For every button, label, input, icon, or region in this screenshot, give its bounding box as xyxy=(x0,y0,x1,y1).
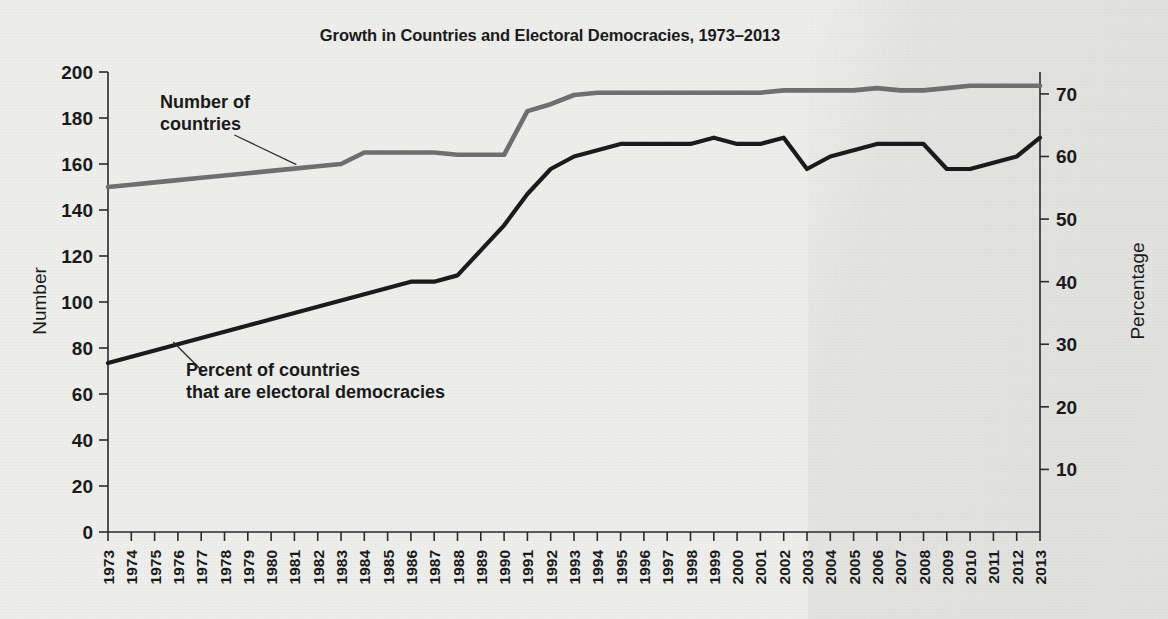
x-axis-year-label: 1973 xyxy=(100,550,117,585)
x-axis-year-label: 1979 xyxy=(240,550,257,585)
x-axis-year-label: 1991 xyxy=(519,550,536,585)
x-axis-year-label: 2012 xyxy=(1009,550,1026,584)
x-axis-year-label: 2007 xyxy=(892,550,909,584)
left-axis-title: Number xyxy=(29,241,51,361)
right-axis-tick-label: 40 xyxy=(1056,272,1077,293)
x-axis-year-label: 1982 xyxy=(310,550,327,584)
x-axis-year-label: 2003 xyxy=(799,550,816,585)
annotation-number-of-countries-line1: Number of xyxy=(160,92,250,114)
right-axis-title: Percentage xyxy=(1127,211,1149,371)
x-axis-year-label: 2013 xyxy=(1032,550,1049,585)
left-axis-tick-label: 40 xyxy=(72,430,93,451)
left-axis-tick-label: 160 xyxy=(61,154,93,175)
x-axis-year-label: 1997 xyxy=(659,550,676,584)
x-axis-year-label: 1993 xyxy=(566,550,583,585)
x-axis-year-label: 1996 xyxy=(636,550,653,585)
annotation-number-of-countries: Number of countries xyxy=(160,92,250,136)
left-axis-tick-label: 60 xyxy=(72,384,93,405)
x-axis-year-label: 1990 xyxy=(496,550,513,584)
right-axis-tick-label: 70 xyxy=(1056,84,1077,105)
x-axis-year-label: 2004 xyxy=(822,550,839,585)
left-axis-tick-label: 200 xyxy=(61,62,93,83)
x-axis-year-label: 2011 xyxy=(985,550,1002,584)
x-axis-year-label: 1986 xyxy=(403,550,420,585)
x-axis-year-label: 1988 xyxy=(450,550,467,585)
annotation-percent-democracies-line1: Percent of countries xyxy=(186,360,445,382)
x-axis-year-label: 2000 xyxy=(729,550,746,584)
chart-title: Growth in Countries and Electoral Democr… xyxy=(0,26,1100,45)
right-axis-tick-label: 30 xyxy=(1056,334,1077,355)
x-axis-year-label: 1984 xyxy=(356,550,373,585)
x-axis-year-label: 1978 xyxy=(217,550,234,585)
x-axis-year-label: 2009 xyxy=(939,550,956,585)
x-axis-year-label: 1994 xyxy=(589,550,606,585)
left-axis-tick-label: 100 xyxy=(61,292,93,313)
x-axis-year-label: 2005 xyxy=(846,550,863,585)
left-axis-tick-label: 0 xyxy=(82,522,93,543)
x-axis-year-label: 1983 xyxy=(333,550,350,585)
x-axis-year-label: 1987 xyxy=(426,550,443,584)
x-axis-year-label: 1980 xyxy=(263,550,280,584)
x-axis-year-label: 1989 xyxy=(473,550,490,585)
right-axis-tick-label: 50 xyxy=(1056,209,1077,230)
annotation-leader-number-of-countries xyxy=(234,135,296,165)
x-axis-year-label: 2008 xyxy=(916,550,933,585)
right-axis-tick-label: 20 xyxy=(1056,397,1077,418)
x-axis-year-label: 2006 xyxy=(869,550,886,585)
left-axis-tick-label: 80 xyxy=(72,338,93,359)
x-axis-year-label: 2010 xyxy=(962,550,979,584)
annotation-number-of-countries-line2: countries xyxy=(160,114,250,136)
x-axis-year-label: 1981 xyxy=(286,550,303,585)
x-axis-year-label: 1992 xyxy=(543,550,560,584)
left-axis-tick-label: 180 xyxy=(61,108,93,129)
left-axis-tick-label: 120 xyxy=(61,246,93,267)
right-axis-tick-label: 10 xyxy=(1056,459,1077,480)
annotation-percent-democracies-line2: that are electoral democracies xyxy=(186,382,445,404)
x-axis-year-label: 1999 xyxy=(706,550,723,585)
x-axis-year-label: 1977 xyxy=(193,550,210,584)
right-axis-tick-label: 60 xyxy=(1056,146,1077,167)
x-axis-year-label: 1985 xyxy=(380,550,397,585)
left-axis-tick-label: 20 xyxy=(72,476,93,497)
chart-figure: 0204060801001201401601802001020304050607… xyxy=(0,0,1168,619)
x-axis-year-label: 2002 xyxy=(776,550,793,584)
x-axis-year-label: 2001 xyxy=(752,550,769,585)
x-axis-year-label: 1975 xyxy=(147,550,164,585)
annotation-percent-democracies: Percent of countries that are electoral … xyxy=(186,360,445,404)
x-axis-year-label: 1995 xyxy=(613,550,630,585)
left-axis-tick-label: 140 xyxy=(61,200,93,221)
x-axis-year-label: 1974 xyxy=(123,550,140,585)
x-axis-year-label: 1976 xyxy=(170,550,187,585)
x-axis-year-label: 1998 xyxy=(683,550,700,585)
